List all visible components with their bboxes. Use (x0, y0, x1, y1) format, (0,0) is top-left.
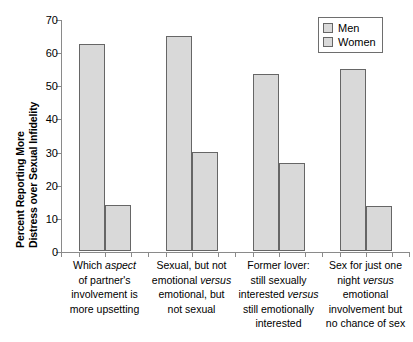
y-axis-title: Percent Reporting More Distress over Sex… (0, 0, 34, 258)
x-axis-category-label-1: Which aspectof partner'sinvolvement ismo… (61, 258, 148, 316)
legend-label-men: Men (338, 23, 359, 34)
y-axis-title-line-2: Distress over Sexual Infidelity (27, 102, 40, 248)
plain-text: still emotionally (243, 303, 314, 315)
category-label-line: Former lover: (235, 258, 322, 273)
x-axis-tick-mark (322, 252, 323, 257)
category-label-line: involvement but (322, 302, 409, 317)
italic-text: versus (363, 274, 394, 286)
x-axis-tick-mark (218, 252, 219, 257)
category-label-line: still sexually (235, 273, 322, 288)
legend-swatch-icon-women (323, 37, 333, 47)
x-axis-category-label-3: Former lover:still sexuallyinterested ve… (235, 258, 322, 331)
plain-text: of partner's (78, 274, 130, 286)
category-label-line: emotional versus (148, 273, 235, 288)
y-axis-tick-label: 10 (46, 213, 58, 224)
plain-text: not sexual (168, 303, 216, 315)
bar-women-group-2 (192, 152, 218, 251)
legend: Men Women (318, 17, 383, 53)
plain-text: Sexual, but not (156, 259, 226, 271)
bar-men-group-3 (253, 74, 279, 251)
x-axis-tick-mark (340, 252, 341, 257)
y-axis-tick-label: 20 (46, 180, 58, 191)
plain-text: involvement is (71, 288, 138, 300)
plain-text: interested (255, 317, 301, 329)
x-axis-tick-mark (131, 252, 132, 257)
x-axis-category-label-2: Sexual, but notemotional versusemotional… (148, 258, 235, 316)
x-axis-category-label-4: Sex for just onenight versusemotionalinv… (322, 258, 409, 331)
plain-text: Which (73, 259, 105, 271)
legend-label-women: Women (338, 37, 376, 48)
plain-text: emotional (343, 288, 389, 300)
y-axis-tick-label: 70 (46, 15, 58, 26)
category-label-line: no chance of sex (322, 316, 409, 331)
bar-chart: Percent Reporting More Distress over Sex… (0, 0, 413, 342)
plain-text: still sexually (250, 274, 306, 286)
plain-text: emotional (152, 274, 200, 286)
legend-swatch-icon-men (323, 23, 333, 33)
x-axis-tick-mark (305, 252, 306, 257)
bar-men-group-1 (79, 44, 105, 251)
plot-area: 010203040506070 (61, 20, 409, 252)
x-axis-tick-mark (392, 252, 393, 257)
category-label-line: Sex for just one (322, 258, 409, 273)
y-axis-tick-label: 50 (46, 81, 58, 92)
x-axis-tick-mark (61, 252, 62, 257)
x-axis-tick-mark (409, 252, 410, 257)
y-axis-title-line-1: Percent Reporting More (14, 131, 27, 248)
x-axis-tick-mark (166, 252, 167, 257)
x-axis-tick-mark (105, 252, 106, 257)
category-label-line: Sexual, but not (148, 258, 235, 273)
italic-text: versus (200, 274, 231, 286)
category-label-line: not sexual (148, 302, 235, 317)
plain-text: more upsetting (70, 303, 139, 315)
category-label-line: emotional, but (148, 287, 235, 302)
x-axis-tick-mark (79, 252, 80, 257)
plain-text: emotional, but (159, 288, 225, 300)
legend-item-women: Women (323, 35, 376, 49)
x-axis-tick-mark (253, 252, 254, 257)
y-axis-tick-label: 40 (46, 114, 58, 125)
y-axis-tick-label: 60 (46, 48, 58, 59)
x-axis-tick-mark (192, 252, 193, 257)
bar-women-group-3 (279, 163, 305, 251)
plain-text: no chance of sex (326, 317, 405, 329)
bar-women-group-1 (105, 205, 131, 251)
plain-text: involvement but (329, 303, 403, 315)
category-label-line: still emotionally (235, 302, 322, 317)
bar-men-group-2 (166, 36, 192, 251)
category-label-line: interested versus (235, 287, 322, 302)
bar-men-group-4 (340, 69, 366, 251)
category-label-line: of partner's (61, 273, 148, 288)
plain-text: Former lover: (247, 259, 309, 271)
italic-text: aspect (105, 259, 136, 271)
category-label-line: more upsetting (61, 302, 148, 317)
x-axis-tick-mark (148, 252, 149, 257)
category-label-line: interested (235, 316, 322, 331)
x-axis-tick-mark (366, 252, 367, 257)
category-label-line: Which aspect (61, 258, 148, 273)
y-axis-tick-label: 30 (46, 147, 58, 158)
legend-item-men: Men (323, 21, 376, 35)
x-axis-tick-mark (235, 252, 236, 257)
x-axis-category-labels: Which aspectof partner'sinvolvement ismo… (61, 258, 409, 342)
y-axis-line (61, 20, 62, 253)
plain-text: interested (239, 288, 288, 300)
plain-text: night (337, 274, 363, 286)
category-label-line: emotional (322, 287, 409, 302)
plain-text: Sex for just one (329, 259, 402, 271)
category-label-line: involvement is (61, 287, 148, 302)
y-axis-tick-label: 0 (52, 247, 58, 258)
italic-text: versus (288, 288, 319, 300)
x-axis-tick-mark (279, 252, 280, 257)
category-label-line: night versus (322, 273, 409, 288)
bar-women-group-4 (366, 206, 392, 251)
